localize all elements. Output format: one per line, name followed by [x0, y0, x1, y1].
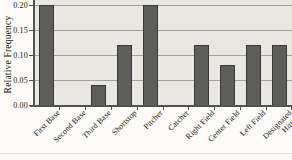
ytick-label-0.05: 0.05 [0, 76, 28, 85]
bar-chart-figure: Relative Frequency 0.200.150.100.050.00 … [0, 0, 292, 160]
ytick-label-0.15: 0.15 [0, 26, 28, 35]
bar-designated-hitter [272, 45, 287, 105]
xtick-mark [85, 107, 86, 110]
bar-right-field [194, 45, 209, 105]
xtick-mark [59, 107, 60, 110]
gridline-0.2 [34, 5, 292, 6]
xtick-mark [240, 107, 241, 110]
xtick-mark [188, 107, 189, 110]
xtick-mark [214, 107, 215, 110]
xtick-mark [266, 107, 267, 110]
y-axis-line [33, 0, 35, 107]
bar-first-base [39, 5, 54, 105]
plot-area [34, 0, 292, 105]
xtick-mark [111, 107, 112, 110]
xtick-mark [163, 107, 164, 110]
bar-pitcher [143, 5, 158, 105]
bar-third-base [91, 85, 106, 105]
ytick-label-0.10: 0.10 [0, 51, 28, 60]
ytick-label-0.00: 0.00 [0, 101, 28, 110]
xtick-mark [291, 107, 292, 110]
gridline-0.15 [34, 30, 292, 31]
bar-left-field [246, 45, 261, 105]
page-rule [0, 153, 292, 154]
x-axis-line [30, 105, 292, 107]
xtick-mark [137, 107, 138, 110]
bar-center-field [220, 65, 235, 105]
ytick-label-0.20: 0.20 [0, 1, 28, 10]
bar-shortstop [117, 45, 132, 105]
